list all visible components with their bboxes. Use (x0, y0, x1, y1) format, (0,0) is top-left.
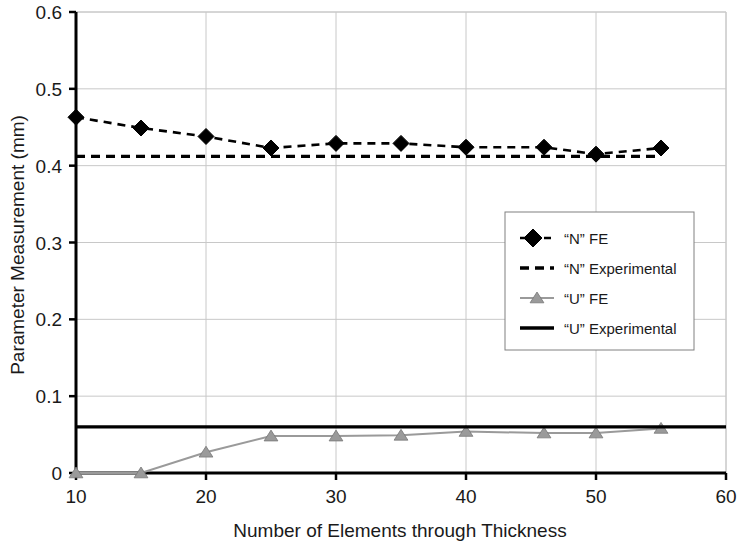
x-axis-title: Number of Elements through Thickness (233, 520, 566, 541)
chart-legend: “N” FE“N” Experimental“U” FE“U” Experime… (505, 212, 694, 350)
data-point-marker (328, 135, 344, 151)
series-line (76, 428, 661, 473)
chart-container: 00.10.20.30.40.50.6 102030405060 Paramet… (0, 0, 750, 550)
y-axis-title: Parameter Measurement (mm) (7, 115, 28, 375)
series-line (76, 117, 661, 154)
data-point-marker (458, 139, 474, 155)
data-point-marker (68, 109, 84, 125)
y-tick-label: 0.4 (36, 156, 63, 177)
data-point-marker (536, 139, 552, 155)
x-tick-label: 30 (325, 486, 346, 507)
data-point-marker (133, 120, 149, 136)
x-tick-label: 20 (195, 486, 216, 507)
data-point-marker (198, 128, 214, 144)
data-point-marker (393, 135, 409, 151)
y-tick-label: 0 (51, 463, 62, 484)
x-tick-label: 60 (715, 486, 736, 507)
x-tick-label: 40 (455, 486, 476, 507)
series-dashed-with-diamond-markers (68, 109, 669, 162)
y-tick-label: 0.2 (36, 309, 62, 330)
x-tick-label: 10 (65, 486, 86, 507)
legend-label: “U” Experimental (564, 320, 677, 337)
legend-label: “N” FE (564, 230, 608, 247)
y-tick-label: 0.6 (36, 2, 62, 23)
data-point-marker (653, 140, 669, 156)
y-tick-label: 0.5 (36, 79, 62, 100)
data-point-marker (263, 140, 279, 156)
y-tick-label: 0.1 (36, 386, 62, 407)
y-tick-label: 0.3 (36, 233, 62, 254)
legend-label: “N” Experimental (564, 260, 677, 277)
x-tick-label: 50 (585, 486, 606, 507)
legend-label: “U” FE (564, 290, 608, 307)
x-tick-labels: 102030405060 (65, 486, 736, 507)
y-tick-labels: 00.10.20.30.40.50.6 (36, 2, 63, 484)
chart-svg: 00.10.20.30.40.50.6 102030405060 Paramet… (0, 0, 750, 550)
data-point-marker (588, 146, 604, 162)
series-solid-with-triangle-markers (69, 422, 668, 477)
